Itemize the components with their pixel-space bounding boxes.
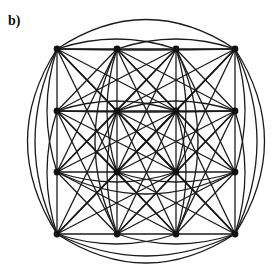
graph-node xyxy=(173,169,180,176)
graph-node xyxy=(114,231,121,238)
graph-node xyxy=(114,46,121,53)
edge-arc xyxy=(57,172,235,194)
edge-arc xyxy=(95,49,117,234)
outer-arc xyxy=(28,49,58,234)
edge-arc xyxy=(35,49,57,234)
graph-diagram xyxy=(0,0,275,279)
graph-node xyxy=(232,169,239,176)
graph-node xyxy=(232,46,239,53)
graph-node xyxy=(114,108,121,115)
outer-arc xyxy=(57,234,235,263)
outer-arc xyxy=(57,20,235,50)
graph-node xyxy=(114,169,121,176)
graph-node xyxy=(232,108,239,115)
graph-node xyxy=(54,46,61,53)
outer-arc xyxy=(235,49,265,234)
graph-node xyxy=(232,231,239,238)
edge-arc xyxy=(235,49,257,234)
edges xyxy=(28,20,265,264)
graph-node xyxy=(54,169,61,176)
edge-arc xyxy=(57,234,235,256)
graph-node xyxy=(173,46,180,53)
graph-node xyxy=(173,108,180,115)
graph-node xyxy=(173,231,180,238)
edge-arc xyxy=(176,49,198,234)
graph-node xyxy=(54,108,61,115)
graph-node xyxy=(54,231,61,238)
